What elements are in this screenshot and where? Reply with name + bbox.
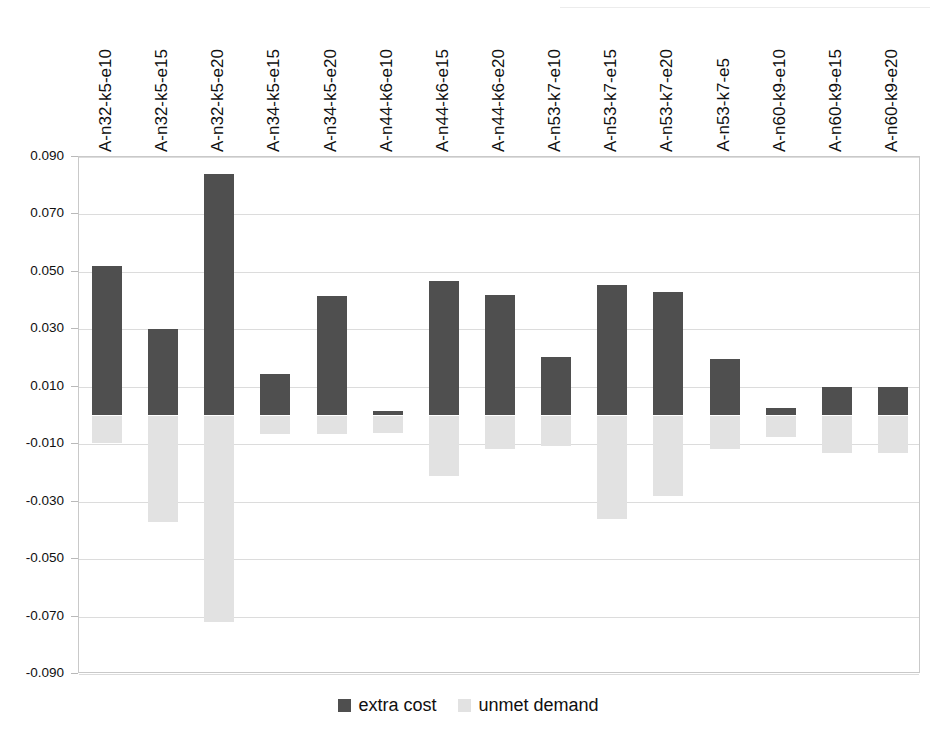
bar[interactable]: [822, 416, 852, 453]
x-axis-category-label: A-n32-k5-e10: [96, 49, 116, 152]
x-axis-category-label: A-n44-k6-e15: [433, 49, 453, 152]
bar[interactable]: [485, 295, 515, 416]
y-axis-tick-mark: [71, 558, 78, 559]
bars-layer: [79, 157, 919, 672]
bar[interactable]: [541, 416, 571, 446]
y-axis-tick-label: -0.050: [26, 551, 64, 565]
y-axis-tick-mark: [71, 501, 78, 502]
y-axis-tick-mark: [71, 213, 78, 214]
bar[interactable]: [148, 329, 178, 415]
x-axis-category-label: A-n32-k5-e15: [152, 49, 172, 152]
bar[interactable]: [92, 416, 122, 443]
x-axis-category-label: A-n60-k9-e20: [882, 49, 902, 152]
bar[interactable]: [653, 292, 683, 416]
bar[interactable]: [260, 374, 290, 416]
chart-legend: extra costunmet demand: [0, 690, 937, 720]
y-axis-tick-mark: [71, 616, 78, 617]
bar[interactable]: [710, 359, 740, 415]
y-axis-tick-label: 0.050: [30, 264, 64, 278]
bar[interactable]: [148, 416, 178, 522]
x-axis-category-label: A-n60-k9-e10: [770, 49, 790, 152]
x-axis-category-label: A-n53-k7-e20: [657, 49, 677, 152]
bar[interactable]: [878, 387, 908, 416]
bar[interactable]: [766, 408, 796, 415]
y-axis-tick-mark: [71, 673, 78, 674]
bar-chart: A-n32-k5-e10A-n32-k5-e15A-n32-k5-e20A-n3…: [0, 0, 937, 730]
x-axis-category-labels: A-n32-k5-e10A-n32-k5-e15A-n32-k5-e20A-n3…: [0, 0, 937, 156]
bar[interactable]: [597, 285, 627, 416]
bar[interactable]: [710, 416, 740, 449]
x-axis-category-label: A-n32-k5-e20: [208, 49, 228, 152]
bar[interactable]: [317, 416, 347, 435]
y-axis-tick-label: -0.070: [26, 609, 64, 623]
y-axis-tick-labels: 0.0900.0700.0500.0300.010-0.010-0.030-0.…: [0, 0, 78, 730]
bar[interactable]: [92, 266, 122, 415]
y-axis-tick-label: -0.030: [26, 494, 64, 508]
bar[interactable]: [204, 416, 234, 623]
bar[interactable]: [597, 416, 627, 519]
bar[interactable]: [822, 387, 852, 416]
x-axis-category-label: A-n53-k7-e15: [601, 49, 621, 152]
y-axis-tick-label: 0.010: [30, 379, 64, 393]
bar[interactable]: [260, 416, 290, 435]
y-axis-tick-label: -0.090: [26, 666, 64, 680]
legend-label: unmet demand: [478, 695, 598, 716]
bar[interactable]: [878, 416, 908, 453]
plot-area: [78, 156, 920, 673]
bar[interactable]: [653, 416, 683, 496]
y-axis-tick-label: 0.030: [30, 321, 64, 335]
x-axis-category-label: A-n44-k6-e10: [377, 49, 397, 152]
bar[interactable]: [204, 174, 234, 415]
x-axis-category-label: A-n60-k9-e15: [826, 49, 846, 152]
legend-item[interactable]: unmet demand: [458, 695, 598, 716]
x-axis-category-label: A-n53-k7-e5: [714, 58, 734, 152]
bar[interactable]: [541, 357, 571, 416]
legend-swatch-cost: [338, 699, 351, 712]
y-axis-tick-mark: [71, 328, 78, 329]
legend-item[interactable]: extra cost: [338, 695, 436, 716]
x-axis-category-label: A-n34-k5-e20: [321, 49, 341, 152]
legend-swatch-demand: [458, 699, 471, 712]
y-axis-tick-mark: [71, 156, 78, 157]
y-axis-tick-mark: [71, 443, 78, 444]
y-axis-tick-mark: [71, 386, 78, 387]
y-axis-tick-mark: [71, 271, 78, 272]
y-axis-tick-label: 0.090: [30, 149, 64, 163]
x-axis-category-label: A-n53-k7-e10: [545, 49, 565, 152]
x-axis-category-label: A-n44-k6-e20: [489, 49, 509, 152]
y-axis-tick-label: 0.070: [30, 206, 64, 220]
x-axis-category-label: A-n34-k5-e15: [264, 49, 284, 152]
legend-label: extra cost: [358, 695, 436, 716]
bar[interactable]: [485, 416, 515, 449]
y-axis-tick-label: -0.010: [26, 436, 64, 450]
bar[interactable]: [317, 296, 347, 415]
bar[interactable]: [373, 416, 403, 433]
bar[interactable]: [429, 416, 459, 476]
bar[interactable]: [429, 281, 459, 416]
bar[interactable]: [766, 416, 796, 438]
gridline: [79, 674, 919, 675]
